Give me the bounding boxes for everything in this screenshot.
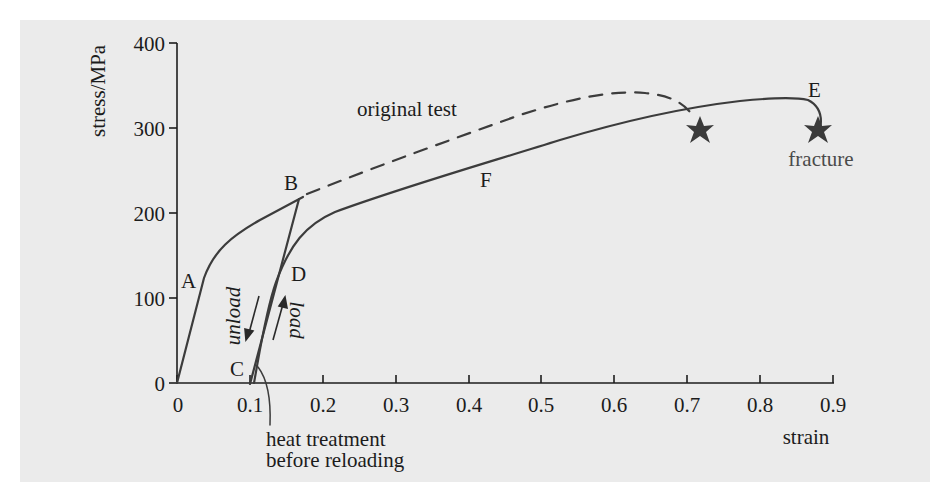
label-e: E: [808, 78, 821, 102]
reload-curve: [254, 98, 821, 383]
label-b: B: [284, 171, 298, 195]
point-labels: A B C D E F: [181, 78, 821, 381]
x-tick-labels: 0 0.1 0.2 0.3 0.4 0.5 0.6 0.7 0.8 0.9: [173, 393, 846, 417]
y-tick-400: 400: [134, 32, 166, 56]
stress-strain-chart: 400 300 200 100 0 0 0.1 0.2 0.3 0.4 0.5 …: [0, 0, 947, 501]
x-tick-0.7: 0.7: [674, 393, 700, 417]
unload-line: [250, 199, 299, 384]
unload-arrowhead: [245, 329, 253, 340]
fracture-star-icon: [804, 116, 832, 143]
x-tick-0.8: 0.8: [747, 393, 773, 417]
unload-arrow: [249, 296, 259, 333]
x-tick-0.1: 0.1: [237, 393, 263, 417]
label-a: A: [181, 269, 197, 293]
y-tick-labels: 400 300 200 100 0: [134, 32, 166, 396]
y-tick-100: 100: [134, 287, 166, 311]
x-tick-0.4: 0.4: [456, 393, 483, 417]
y-axis-label: stress/MPa: [86, 44, 110, 137]
y-tick-0: 0: [155, 372, 166, 396]
x-tick-0.5: 0.5: [528, 393, 554, 417]
x-axis-label: strain: [783, 425, 830, 449]
heat-treatment-label-line2: before reloading: [266, 448, 405, 472]
label-c: C: [230, 357, 244, 381]
fracture-markers: [686, 116, 832, 143]
label-d: D: [291, 262, 306, 286]
x-tick-0: 0: [173, 393, 184, 417]
original-test-label: original test: [357, 97, 457, 121]
y-tick-200: 200: [134, 202, 166, 226]
x-tick-0.6: 0.6: [601, 393, 627, 417]
load-label: load: [285, 301, 309, 339]
fracture-star-original-icon: [686, 116, 714, 143]
y-tick-300: 300: [134, 117, 166, 141]
load-arrow: [273, 304, 283, 340]
label-f: F: [480, 168, 492, 192]
x-tick-0.9: 0.9: [820, 393, 846, 417]
x-tick-0.3: 0.3: [383, 393, 409, 417]
x-tick-0.2: 0.2: [310, 393, 336, 417]
axes: [169, 43, 834, 384]
fracture-label: fracture: [788, 147, 853, 171]
curves: [177, 92, 821, 425]
unload-label: unload: [221, 286, 245, 345]
